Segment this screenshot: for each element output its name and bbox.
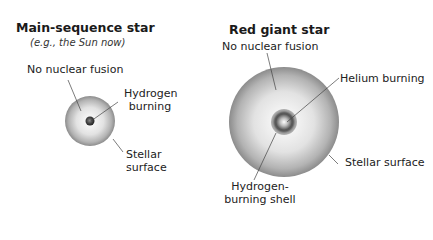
main-sequence-title: Main-sequence star [16,20,155,35]
main-sequence-core [86,117,95,126]
label-stellar-surface-large: Stellar surface [345,156,425,169]
label-no-fusion-large: No nuclear fusion [222,40,318,53]
label-stellar-surface-small: Stellar surface [126,148,167,174]
red-giant-star [229,53,339,180]
label-helium-burning: Helium burning [340,72,425,85]
red-giant-title: Red giant star [229,22,329,37]
leader-surface-large [329,155,338,164]
helium-core [276,114,292,130]
label-hydrogen-burning: Hydrogen burning [124,87,176,113]
main-sequence-subtitle: (e.g., the Sun now) [30,37,125,48]
main-sequence-star [65,80,123,152]
leader-surface-small [113,139,123,152]
label-no-fusion-small: No nuclear fusion [27,63,123,76]
label-hydrogen-burning-shell: Hydrogen- burning shell [223,180,297,206]
